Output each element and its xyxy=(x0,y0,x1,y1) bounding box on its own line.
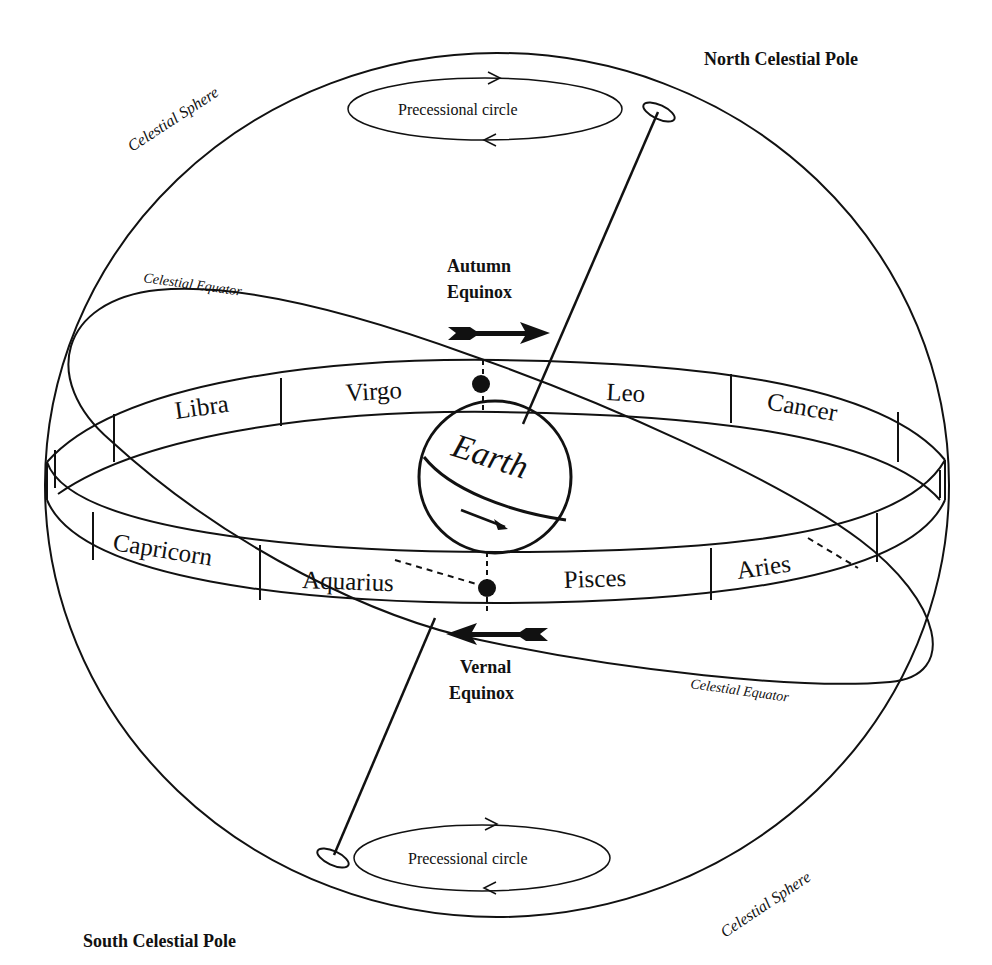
zodiac-pisces: Pisces xyxy=(563,564,626,593)
precessional-circle-label-top: Precessional circle xyxy=(398,101,518,118)
zodiac-cancer: Cancer xyxy=(765,387,840,426)
vernal-equinox-label-2: Equinox xyxy=(449,683,514,703)
polar-axis-south xyxy=(334,618,435,855)
autumn-equinox-arrow-icon xyxy=(448,322,550,344)
equator-hidden-segment xyxy=(395,560,490,588)
earth-globe xyxy=(419,401,571,553)
vernal-equinox-arrow-icon xyxy=(446,623,548,645)
celestial-sphere-label-bottom: Celestial Sphere xyxy=(717,868,814,941)
autumn-equinox-point xyxy=(472,375,490,393)
precessional-circle-label-bottom: Precessional circle xyxy=(408,850,528,867)
celestial-equator-label-top: Celestial Equator xyxy=(143,270,244,299)
south-pole-marker xyxy=(315,844,352,871)
south-pole-label: South Celestial Pole xyxy=(83,931,236,951)
arrow-right-icon xyxy=(485,818,497,830)
north-pole-marker xyxy=(641,98,678,125)
celestial-sphere-label-top: Celestial Sphere xyxy=(124,83,222,155)
arrow-left-icon xyxy=(484,882,496,894)
celestial-equator xyxy=(68,289,932,684)
zodiac-virgo: Virgo xyxy=(345,376,403,406)
zodiac-libra: Libra xyxy=(173,390,230,424)
autumn-equinox-label-2: Equinox xyxy=(447,282,512,302)
zodiac-capricorn: Capricorn xyxy=(111,528,214,570)
vernal-equinox-point xyxy=(478,579,496,597)
earth-rotation-arrowhead-icon xyxy=(494,519,508,530)
vernal-equinox-label-1: Vernal xyxy=(460,657,511,677)
celestial-sphere-outline xyxy=(45,53,949,917)
zodiac-aquarius: Aquarius xyxy=(302,566,395,596)
north-pole-label: North Celestial Pole xyxy=(704,49,858,69)
autumn-equinox-label-1: Autumn xyxy=(447,256,511,276)
celestial-sphere-diagram: North Celestial Pole South Celestial Pol… xyxy=(0,0,992,965)
earth-label: Earth xyxy=(447,426,533,485)
polar-axis-north xyxy=(523,112,658,424)
celestial-equator-label-bottom: Celestial Equator xyxy=(690,676,791,705)
zodiac-aries: Aries xyxy=(735,550,792,584)
equator-hidden-segment-right xyxy=(808,538,858,568)
zodiac-leo: Leo xyxy=(606,378,646,407)
